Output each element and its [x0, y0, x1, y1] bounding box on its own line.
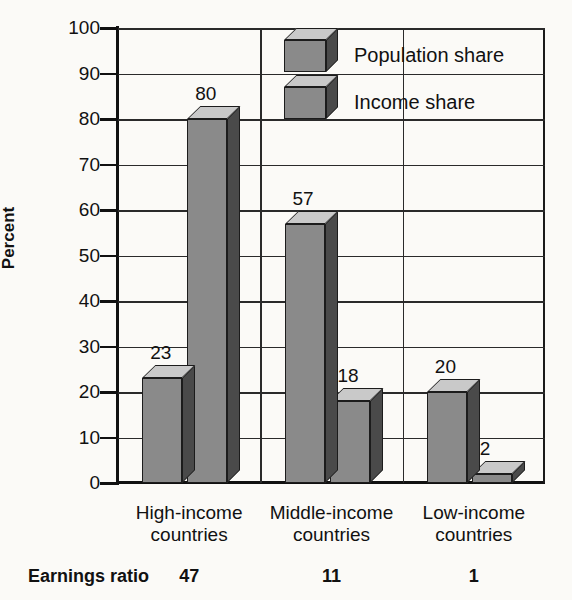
y-tick-label: 30: [54, 337, 100, 356]
y-tick-mark: [100, 346, 116, 349]
legend-swatch-cube: [284, 77, 326, 109]
bar-value-label: 57: [293, 189, 314, 208]
y-tick-mark: [100, 164, 116, 167]
bar: [427, 392, 467, 483]
bar-side-face: [370, 401, 383, 483]
y-tick-mark: [100, 27, 116, 30]
bar-side-face: [512, 474, 525, 483]
bar-side-face: [227, 119, 240, 483]
earnings-ratio-value: 47: [144, 566, 234, 587]
y-tick-label: 40: [54, 291, 100, 310]
bar-front-face: [142, 378, 182, 483]
category-label-line: Low-income: [384, 502, 564, 524]
earnings-ratio-label: Earnings ratio: [28, 566, 149, 587]
bar-top-face: [285, 211, 325, 224]
bar-value-label: 18: [338, 366, 359, 385]
bar-side-face: [467, 392, 480, 483]
bar-value-label: 23: [150, 343, 171, 362]
y-tick-mark: [100, 391, 116, 394]
legend-item[interactable]: Population share: [276, 30, 536, 77]
y-tick-mark: [100, 73, 116, 76]
y-tick-mark: [100, 482, 116, 485]
vertical-gridline: [260, 28, 262, 483]
horizontal-gridline: [118, 165, 545, 167]
bar-value-label: 20: [435, 357, 456, 376]
bar-top-face: [142, 365, 182, 378]
bar-front-face: [285, 224, 325, 483]
bar-top-face: [427, 379, 467, 392]
y-tick-label: 50: [54, 246, 100, 265]
bar-value-label: 2: [480, 439, 491, 458]
legend-item[interactable]: Income share: [276, 77, 536, 124]
y-tick-mark: [100, 300, 116, 303]
y-tick-label: 10: [54, 428, 100, 447]
y-tick-mark: [100, 209, 116, 212]
y-tick-mark: [100, 437, 116, 440]
y-tick-label: 80: [54, 109, 100, 128]
y-axis-title: Percent: [0, 207, 19, 269]
earnings-ratio-value: 11: [287, 566, 377, 587]
bar-front-face: [427, 392, 467, 483]
bar-side-face: [182, 378, 195, 483]
chart-page: 1009080706050403020100 Percent 238057182…: [0, 0, 572, 600]
y-tick-label: 90: [54, 64, 100, 83]
earnings-ratio-value: 1: [429, 566, 519, 587]
y-tick-label: 70: [54, 155, 100, 174]
legend-label: Income share: [354, 91, 475, 114]
y-tick-label: 60: [54, 200, 100, 219]
legend-label: Population share: [354, 44, 504, 67]
legend-swatch-cube: [284, 30, 326, 62]
y-tick-label: 100: [54, 18, 100, 37]
y-tick-label: 0: [54, 473, 100, 492]
y-tick-mark: [100, 255, 116, 258]
category-label: Low-incomecountries: [384, 502, 564, 547]
category-label-line: countries: [384, 524, 564, 546]
legend: Population shareIncome share: [276, 30, 536, 124]
bar-side-face: [325, 224, 338, 483]
y-tick-label: 20: [54, 382, 100, 401]
bar: [142, 378, 182, 483]
bar-top-face: [187, 106, 227, 119]
y-tick-mark: [100, 118, 116, 121]
bar-value-label: 80: [195, 84, 216, 103]
bar: [285, 224, 325, 483]
y-axis-tick-labels: 1009080706050403020100: [14, 0, 100, 600]
